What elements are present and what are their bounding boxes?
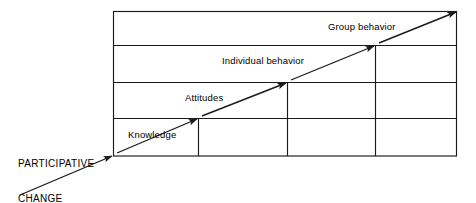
- participative-change-diagram: PARTICIPATIVE CHANGE Knowledge Attitudes…: [0, 0, 476, 203]
- participative-change-label-line2: CHANGE: [18, 193, 95, 203]
- step-label-attitudes: Attitudes: [185, 92, 223, 103]
- step-label-group-behavior: Group behavior: [328, 21, 396, 32]
- step-label-individual-behavior: Individual behavior: [222, 55, 304, 66]
- step-label-knowledge: Knowledge: [128, 129, 176, 140]
- participative-change-label: PARTICIPATIVE CHANGE: [18, 134, 95, 203]
- participative-change-label-line1: PARTICIPATIVE: [18, 158, 95, 170]
